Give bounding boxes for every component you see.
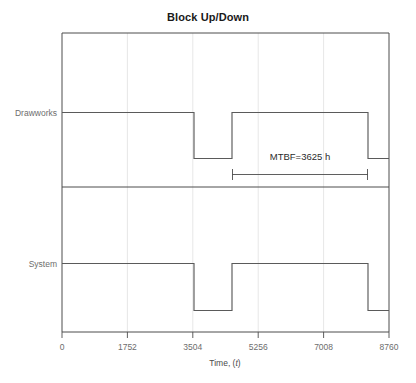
series-label-system: System <box>29 259 57 269</box>
chart-figure: Block Up/Down <box>0 0 416 383</box>
mtbf-label: MTBF=3625 h <box>270 151 330 162</box>
x-axis-title-suffix: ) <box>238 358 241 368</box>
grid-vertical <box>127 33 323 332</box>
system-step-series <box>62 264 389 311</box>
x-axis-ticks <box>62 332 389 338</box>
plot-frame <box>62 33 389 332</box>
x-tick-label-4: 7008 <box>314 342 333 352</box>
x-tick-label-1: 1752 <box>118 342 137 352</box>
block-up-down-chart: MTBF=3625 h Drawworks System 0 1752 3504… <box>0 0 416 383</box>
x-tick-label-0: 0 <box>60 342 65 352</box>
x-tick-label-3: 5256 <box>249 342 268 352</box>
panel-drawworks <box>62 113 389 159</box>
mtbf-annotation: MTBF=3625 h <box>232 151 368 180</box>
x-tick-label-5: 8760 <box>380 342 399 352</box>
series-label-drawworks: Drawworks <box>15 108 57 118</box>
x-axis-title: Time, (t) <box>209 358 241 368</box>
panel-system <box>62 264 389 311</box>
x-tick-label-2: 3504 <box>183 342 202 352</box>
x-axis-title-prefix: Time, ( <box>209 358 235 368</box>
x-axis-tick-labels: 0 1752 3504 5256 7008 8760 <box>60 342 399 352</box>
drawworks-step-series <box>62 113 389 159</box>
